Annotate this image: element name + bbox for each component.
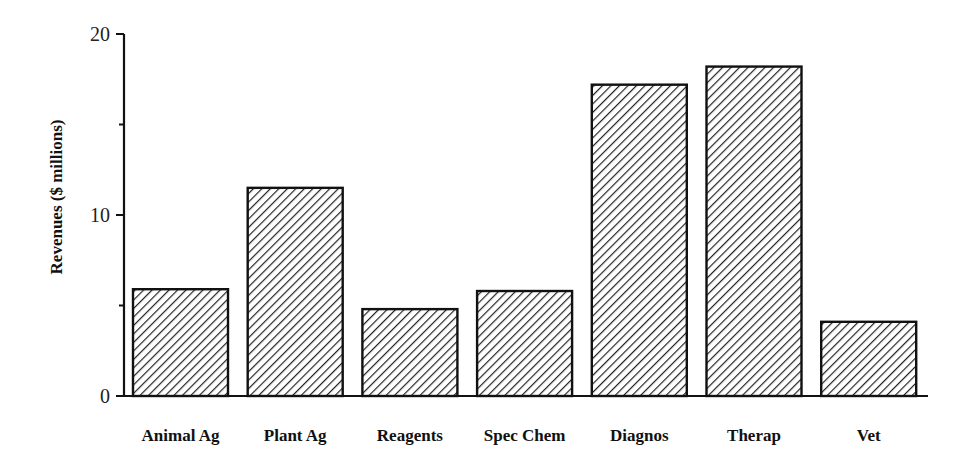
bar-chart: 01020 Animal AgPlant AgReagentsSpec Chem… bbox=[0, 0, 975, 469]
bar-vet bbox=[821, 322, 916, 396]
bar-diagnos bbox=[592, 85, 687, 396]
y-tick-label: 0 bbox=[100, 385, 110, 407]
x-tick-label: Diagnos bbox=[610, 426, 669, 445]
bar-plant-ag bbox=[248, 188, 343, 396]
x-tick-label: Reagents bbox=[377, 426, 443, 445]
bar-therap bbox=[707, 67, 802, 396]
x-tick-label: Plant Ag bbox=[264, 426, 327, 445]
bars-group bbox=[133, 67, 916, 396]
bar-reagents bbox=[362, 309, 457, 396]
y-tick-label: 10 bbox=[90, 204, 110, 226]
x-tick-label: Spec Chem bbox=[484, 426, 566, 445]
x-tick-label: Animal Ag bbox=[142, 426, 220, 445]
bar-spec-chem bbox=[477, 291, 572, 396]
x-axis-labels: Animal AgPlant AgReagentsSpec ChemDiagno… bbox=[142, 426, 881, 445]
bar-animal-ag bbox=[133, 289, 228, 396]
x-tick-label: Vet bbox=[857, 426, 881, 445]
y-axis-title: Revenues ($ millions) bbox=[47, 120, 66, 275]
x-tick-label: Therap bbox=[727, 426, 781, 445]
y-tick-label: 20 bbox=[90, 23, 110, 45]
